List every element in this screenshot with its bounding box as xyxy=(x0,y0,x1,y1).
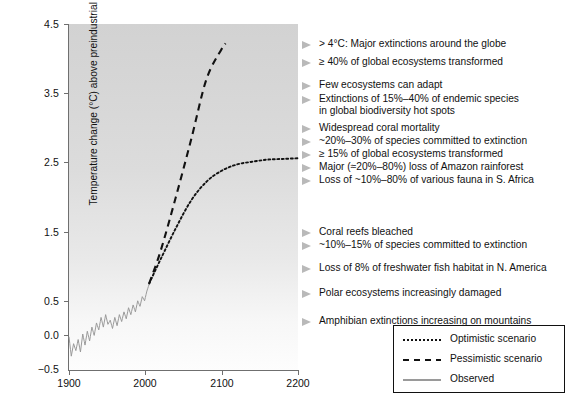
y-tick-label-4.5: 4.5 xyxy=(19,18,59,30)
y-tick-label-2.5: 2.5 xyxy=(19,156,59,168)
annotation-text: ~20%–30% of species committed to extinct… xyxy=(319,135,571,147)
legend-label: Observed xyxy=(450,373,494,384)
y-tick-label-0.0: 0.0 xyxy=(19,329,59,341)
arrow-right-icon xyxy=(302,125,311,133)
series-observed-path xyxy=(69,284,149,356)
arrow-right-icon xyxy=(302,41,311,49)
annotation-text: ~10%–15% of species committed to extinct… xyxy=(319,239,571,251)
plot-area: 4.5 3.5 2.5 1.5 0.5 0.0 −0.5 1900 2000 2… xyxy=(69,24,298,370)
series-pessimistic-path xyxy=(149,43,225,283)
chart-figure: 4.5 3.5 2.5 1.5 0.5 0.0 −0.5 1900 2000 2… xyxy=(0,0,572,416)
legend-item-optimistic: Optimistic scenario xyxy=(394,330,564,350)
arrow-right-icon xyxy=(302,229,311,237)
x-tick-1900 xyxy=(69,370,70,375)
annotation-text: Few ecosystems can adapt xyxy=(319,79,571,91)
arrow-right-icon xyxy=(302,151,311,159)
x-tick-2000 xyxy=(145,370,146,375)
arrow-right-icon xyxy=(302,177,311,185)
arrow-right-icon xyxy=(302,318,311,326)
legend-swatch-dashed-icon xyxy=(403,359,441,361)
arrow-right-icon xyxy=(302,59,311,67)
arrow-right-icon xyxy=(302,96,311,104)
annotation-text: Widespread coral mortality xyxy=(319,122,571,134)
x-tick-label-2100: 2100 xyxy=(200,377,244,389)
annotation-text: Polar ecosystems increasingly damaged xyxy=(319,287,571,299)
arrow-right-icon xyxy=(302,242,311,250)
arrow-right-icon xyxy=(302,164,311,172)
arrow-right-icon xyxy=(302,265,311,273)
legend-label: Pessimistic scenario xyxy=(450,353,542,364)
y-tick-label-1.5: 1.5 xyxy=(19,226,59,238)
x-tick-label-1900: 1900 xyxy=(47,377,91,389)
annotation-text: Major (≈20%–80%) loss of Amazon rainfore… xyxy=(319,161,571,173)
annotation-text: Coral reefs bleached xyxy=(319,226,571,238)
y-tick-label--0.5: −0.5 xyxy=(15,363,59,375)
annotation-text: ≥ 15% of global ecosystems transformed xyxy=(319,148,571,160)
arrow-right-icon xyxy=(302,138,311,146)
y-tick-label-3.5: 3.5 xyxy=(19,87,59,99)
legend-label: Optimistic scenario xyxy=(450,333,536,344)
annotation-text: Loss of 8% of freshwater fish habitat in… xyxy=(319,262,571,274)
legend-item-observed: Observed xyxy=(394,370,564,390)
annotation-text: in global biodiversity hot spots xyxy=(319,105,571,117)
annotation-text: ≥ 40% of global ecosystems transformed xyxy=(319,56,571,68)
x-tick-2200 xyxy=(298,370,299,375)
y-tick-label-0.5: 0.5 xyxy=(19,295,59,307)
x-tick-2100 xyxy=(222,370,223,375)
annotation-text: Loss of ~10%–80% of various fauna in S. … xyxy=(319,174,571,186)
legend-swatch-solid-icon xyxy=(403,379,441,381)
legend-swatch-dotted-icon xyxy=(403,339,441,341)
chart-legend: Optimistic scenario Pessimistic scenario… xyxy=(393,325,565,393)
x-axis-line xyxy=(68,370,298,371)
x-tick-label-2200: 2200 xyxy=(276,377,320,389)
series-svg xyxy=(69,24,298,370)
annotation-text: > 4°C: Major extinctions around the glob… xyxy=(319,38,571,50)
arrow-right-icon xyxy=(302,290,311,298)
annotation-text: Extinctions of 15%–40% of endemic specie… xyxy=(319,93,571,105)
arrow-right-icon xyxy=(302,82,311,90)
annotation-list: > 4°C: Major extinctions around the glob… xyxy=(300,0,572,320)
legend-item-pessimistic: Pessimistic scenario xyxy=(394,350,564,370)
series-optimistic-path xyxy=(149,158,298,283)
x-tick-label-2000: 2000 xyxy=(123,377,167,389)
